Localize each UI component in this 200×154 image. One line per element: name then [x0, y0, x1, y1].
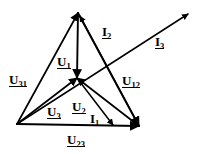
vector-u23 — [17, 124, 139, 126]
phasor-diagram-canvas: U1 U2 U3 U12 U23 U31 I1 I2 I3 — [0, 0, 200, 154]
label-i1: I1 — [90, 110, 99, 126]
label-u31: U31 — [9, 71, 27, 87]
vector-u1 — [77, 13, 78, 78]
phasor-diagram-svg — [0, 0, 200, 154]
label-i2: I2 — [102, 23, 111, 39]
label-u2: U2 — [72, 98, 86, 114]
label-u23: U23 — [67, 131, 85, 147]
label-i3: I3 — [155, 33, 164, 49]
label-u3: U3 — [47, 103, 61, 119]
label-u1: U1 — [57, 53, 71, 69]
label-u12: U12 — [122, 72, 140, 88]
